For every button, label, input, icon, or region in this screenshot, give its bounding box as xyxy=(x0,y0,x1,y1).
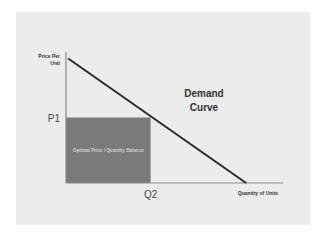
y-axis-label-line-2: Unit xyxy=(50,60,60,66)
p1-tick-label: P1 xyxy=(48,113,61,124)
optimal-region-label: Optimal Price / Quantity Balance xyxy=(73,148,144,153)
demand-chart: Optimal Price / Quantity Balance Price P… xyxy=(0,0,328,237)
y-axis-label-line-1: Price Per xyxy=(38,53,60,59)
demand-curve-label-line-2: Curve xyxy=(190,102,219,113)
q2-tick-label: Q2 xyxy=(144,189,158,200)
x-axis-label: Quantity of Units xyxy=(238,190,278,196)
demand-curve-label-line-1: Demand xyxy=(184,88,223,99)
